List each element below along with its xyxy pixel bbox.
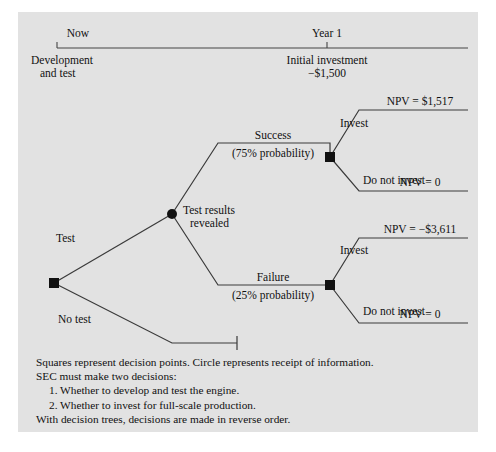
timeline-axis xyxy=(57,42,468,48)
terminal-npv-failure-invest: NPV = −$3,611 xyxy=(384,223,457,236)
node-label-test-results-line1: Test results xyxy=(183,204,235,217)
node-failure-decision-square xyxy=(325,280,335,290)
terminal-npv-success-invest: NPV = $1,517 xyxy=(387,95,454,108)
edge-label-no-test: No test xyxy=(58,313,91,326)
timeline-year1-label: Year 1 xyxy=(312,27,342,40)
edge-label-failure: Failure xyxy=(257,271,290,284)
edge-label-success: Success xyxy=(255,129,291,142)
timeline-year1-sub-line1: Initial investment xyxy=(287,54,368,67)
edge-label-success-probability: (75% probability) xyxy=(232,147,314,160)
note-line-5: With decision trees, decisions are made … xyxy=(36,412,456,426)
terminal-npv-failure-do-not-invest: NPV = 0 xyxy=(400,308,441,321)
timeline-now-label: Now xyxy=(67,27,89,40)
note-line-3: 1. Whether to develop and test the engin… xyxy=(36,383,456,397)
edge-label-failure-invest: Invest xyxy=(340,244,368,257)
note-line-4: 2. Whether to invest for full-scale prod… xyxy=(36,398,456,412)
timeline-now-sub-line2: and test xyxy=(40,67,75,80)
edge-label-failure-probability: (25% probability) xyxy=(232,289,314,302)
node-root-decision-square xyxy=(49,278,59,288)
node-chance-circle xyxy=(167,209,177,219)
note-line-1: Squares represent decision points. Circl… xyxy=(36,355,456,369)
node-success-decision-square xyxy=(325,152,335,162)
node-label-test-results-line2: revealed xyxy=(190,217,229,230)
figure-notes: Squares represent decision points. Circl… xyxy=(36,355,456,426)
note-line-2: SEC must make two decisions: xyxy=(36,369,456,383)
edge-label-success-invest: Invest xyxy=(340,117,368,130)
edge-label-test: Test xyxy=(56,232,75,245)
timeline-now-sub-line1: Development xyxy=(31,54,93,67)
terminal-npv-success-do-not-invest: NPV = 0 xyxy=(400,176,441,189)
timeline-year1-sub-line2: −$1,500 xyxy=(308,67,346,80)
